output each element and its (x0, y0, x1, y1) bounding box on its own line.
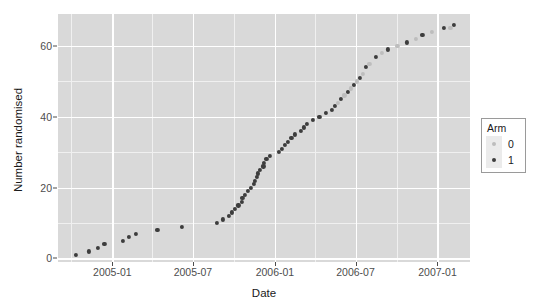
data-point (277, 150, 281, 154)
data-point (74, 253, 78, 257)
x-axis-tick-label: 2006-07 (336, 266, 375, 278)
data-point (127, 235, 131, 239)
x-axis-tick-label: 2005-01 (93, 266, 132, 278)
gridline-major-horizontal (58, 258, 470, 259)
data-point (252, 182, 256, 186)
legend-key-swatch (486, 152, 502, 168)
data-point (289, 136, 293, 140)
data-point (324, 111, 328, 115)
data-point (305, 122, 309, 126)
gridline-major-vertical (275, 14, 276, 262)
x-axis-title: Date (58, 287, 470, 299)
data-point (240, 196, 244, 200)
data-point (262, 161, 266, 165)
gridline-major-vertical (356, 14, 357, 262)
data-point (267, 154, 271, 158)
gridline-minor-vertical (315, 14, 316, 262)
data-point (261, 164, 265, 168)
data-point (96, 246, 100, 250)
data-point (292, 132, 296, 136)
legend-key-dot-icon (492, 158, 496, 162)
data-point (239, 200, 243, 204)
data-point (448, 26, 452, 30)
data-point (180, 224, 184, 228)
data-point (286, 139, 290, 143)
data-point (355, 79, 359, 83)
data-point (121, 239, 125, 243)
y-axis-tick-mark (53, 187, 57, 188)
data-point (87, 249, 91, 253)
gridline-minor-vertical (234, 14, 235, 262)
gridline-minor-horizontal (58, 223, 470, 224)
data-point (214, 221, 218, 225)
y-axis-tick-mark (53, 45, 57, 46)
x-axis-tick-mark (437, 262, 438, 266)
data-point (380, 51, 384, 55)
y-axis-tick-label: 40 (28, 111, 52, 123)
plot-panel (58, 14, 470, 262)
data-point (264, 157, 268, 161)
data-point (317, 115, 321, 119)
data-point (155, 228, 159, 232)
data-point (349, 86, 353, 90)
data-point (299, 129, 303, 133)
gridline-major-horizontal (58, 188, 470, 189)
data-point (386, 47, 390, 51)
data-point (233, 207, 237, 211)
data-point (253, 178, 257, 182)
gridline-minor-vertical (397, 14, 398, 262)
gridline-major-vertical (112, 14, 113, 262)
gridline-major-vertical (193, 14, 194, 262)
data-point (333, 104, 337, 108)
data-point (361, 72, 365, 76)
y-axis-tick-label: 20 (28, 182, 52, 194)
data-point (420, 33, 424, 37)
data-point (414, 37, 418, 41)
y-axis-tick-mark (53, 258, 57, 259)
y-axis-title: Number randomised (9, 2, 27, 278)
data-point (451, 23, 455, 27)
data-point (364, 65, 368, 69)
data-point (330, 108, 334, 112)
legend-title: Arm (487, 122, 521, 134)
data-point (227, 214, 231, 218)
legend-entry-label: 0 (508, 136, 514, 152)
y-axis-tick-label: 0 (28, 252, 52, 264)
legend-key-dot-icon (492, 142, 496, 146)
data-point (249, 186, 253, 190)
gridline-minor-vertical (152, 14, 153, 262)
x-axis-tick-label: 2006-01 (256, 266, 295, 278)
x-axis-tick-mark (112, 262, 113, 266)
data-point (373, 54, 377, 58)
legend: Arm 01 (481, 118, 526, 173)
data-point (339, 97, 343, 101)
scatter-plot-figure: Number randomised 0204060 2005-012005-07… (0, 0, 535, 308)
data-point (283, 143, 287, 147)
gridline-minor-horizontal (58, 152, 470, 153)
data-point (367, 62, 371, 66)
data-point (442, 26, 446, 30)
x-axis-tick-label: 2007-01 (418, 266, 457, 278)
data-point (236, 203, 240, 207)
gridline-major-horizontal (58, 117, 470, 118)
legend-entry-label: 1 (508, 152, 514, 168)
data-point (102, 242, 106, 246)
gridline-minor-vertical (71, 14, 72, 262)
data-point (258, 168, 262, 172)
legend-entry: 0 (486, 136, 521, 152)
data-point (256, 171, 260, 175)
data-point (255, 175, 259, 179)
data-point (246, 189, 250, 193)
y-axis-tick-mark (53, 116, 57, 117)
data-point (243, 193, 247, 197)
legend-key-swatch (486, 136, 502, 152)
y-axis-tick-label: 60 (28, 40, 52, 52)
data-point (345, 90, 349, 94)
data-point (336, 100, 340, 104)
gridline-minor-horizontal (58, 81, 470, 82)
x-axis-tick-mark (193, 262, 194, 266)
data-point (430, 30, 434, 34)
gridline-major-horizontal (58, 46, 470, 47)
data-point (302, 125, 306, 129)
legend-entry: 1 (486, 152, 521, 168)
